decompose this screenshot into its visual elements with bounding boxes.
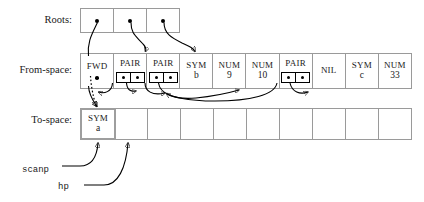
to-space-cell-empty (115, 109, 148, 139)
cell-tag: PAIR (285, 59, 305, 68)
from-space-cell-num-33: NUM 33 (379, 54, 411, 88)
cell-tag: SYM (352, 61, 372, 70)
pair-slots-icon (149, 72, 178, 83)
from-space-cell-num-10: NUM 10 (246, 54, 279, 88)
cell-value: a (96, 124, 100, 134)
roots-cell (114, 9, 147, 32)
from-space-cell-pair-2: PAIR (147, 54, 180, 88)
forwarding-pointer-dot-icon (95, 76, 99, 80)
scanp-pointer-label: scanp (22, 165, 49, 175)
from-space-cell-sym-c: SYM c (346, 54, 379, 88)
from-space-row-label: From-space: (20, 64, 73, 75)
roots-row-label: Roots: (45, 14, 72, 25)
to-space-cell-empty (148, 109, 181, 139)
roots-strip (80, 8, 180, 33)
memory-diagram: Roots: From-space: To-space: FWD PAIR PA… (0, 0, 424, 202)
from-space-cell-pair-1: PAIR (114, 54, 147, 88)
cell-tag: NUM (384, 61, 406, 70)
cell-tag: SYM (88, 114, 108, 123)
arrow-layer (0, 0, 424, 202)
to-space-cell-empty (379, 109, 411, 139)
hp-pointer-label: hp (58, 182, 69, 192)
roots-cell (147, 9, 179, 32)
pointer-dot-icon (161, 19, 165, 23)
from-space-cell-fwd: FWD (81, 54, 114, 88)
cell-value: 33 (390, 71, 400, 81)
to-space-cell-empty (313, 109, 346, 139)
pointer-dot-icon (95, 19, 99, 23)
cell-value: 10 (258, 71, 268, 81)
cell-value: b (194, 71, 199, 81)
cell-tag: PAIR (120, 59, 140, 68)
arrow-hp-to-tospace (84, 143, 128, 185)
to-space-cell-empty (214, 109, 247, 139)
pair-slots-icon (116, 72, 145, 83)
cell-tag: SYM (186, 61, 206, 70)
from-space-cell-num-9: NUM 9 (213, 54, 246, 88)
from-space-cell-sym-b: SYM b (180, 54, 213, 88)
roots-cell (81, 9, 114, 32)
to-space-cell-sym-a: SYM a (80, 108, 116, 140)
from-space-cell-nil: NIL (313, 54, 346, 88)
to-space-cell-empty (346, 109, 379, 139)
arrow-root1-to-tospace (89, 86, 98, 107)
cell-tag: NUM (219, 61, 241, 70)
to-space-strip: SYM a (80, 108, 412, 140)
from-space-cell-pair-3: PAIR (280, 54, 313, 88)
cell-tag: NUM (252, 61, 274, 70)
pair-slots-icon (281, 72, 310, 83)
arrow-scanp-to-tospace (62, 143, 98, 166)
to-space-cell-empty (280, 109, 313, 139)
cell-tag: FWD (87, 62, 108, 71)
from-space-strip: FWD PAIR PAIR SYM b NUM 9 NUM (80, 53, 412, 89)
cell-tag: PAIR (153, 59, 173, 68)
pointer-dot-icon (128, 19, 132, 23)
cell-tag: NIL (321, 66, 337, 75)
to-space-row-label: To-space: (31, 114, 72, 125)
to-space-cell-empty (247, 109, 280, 139)
to-space-cell-empty (181, 109, 214, 139)
cell-value: 9 (227, 71, 232, 81)
cell-value: c (360, 71, 364, 81)
